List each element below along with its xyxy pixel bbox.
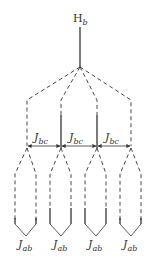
jab-label-4: Jab: [121, 238, 137, 253]
bottom-converge-lines: [15, 224, 141, 236]
jbc-label-2: Jbc: [67, 131, 84, 146]
second-level-branches: [15, 148, 141, 222]
second-level-solid-segments: [15, 208, 141, 224]
jab-label-2: Jab: [51, 238, 67, 253]
jbc-label-3: Jbc: [103, 131, 120, 146]
jbc-label-1: Jbc: [32, 131, 49, 146]
hb-label: Hb: [73, 12, 88, 27]
splitting-diagram: Hb Jbc Jbc Jbc: [0, 0, 152, 262]
jab-label-1: Jab: [16, 238, 32, 253]
first-level-branches: [27, 67, 131, 146]
jab-label-3: Jab: [86, 238, 102, 253]
